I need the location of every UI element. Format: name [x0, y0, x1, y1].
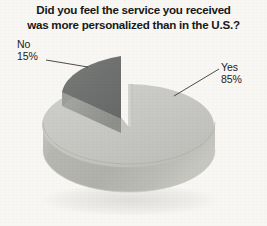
chart-title: Did you feel the service you received wa… — [0, 3, 267, 32]
chart-title-line-2: was more personalized than in the U.S.? — [0, 18, 267, 33]
slice-label-no-percent: 15% — [17, 50, 38, 62]
chart-title-line-1: Did you feel the service you received — [0, 3, 267, 18]
pie-chart-graphic — [0, 0, 267, 226]
slice-label-no-name: No — [17, 38, 38, 50]
slice-label-yes-name: Yes — [221, 61, 242, 73]
pie-chart-screenshot: Did you feel the service you received wa… — [0, 0, 267, 226]
slice-label-yes: Yes 85% — [221, 61, 242, 85]
yes-leader-line — [174, 69, 219, 96]
slice-label-yes-percent: 85% — [221, 73, 242, 85]
yes-slice-notch-wall-right — [128, 84, 133, 128]
no-leader-line — [46, 60, 88, 67]
slice-label-no: No 15% — [17, 38, 38, 62]
